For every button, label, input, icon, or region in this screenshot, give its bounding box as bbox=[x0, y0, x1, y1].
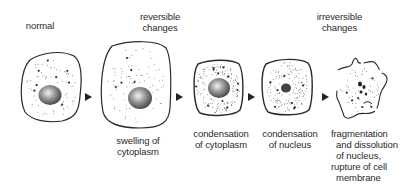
stipple-dot bbox=[302, 77, 303, 78]
stipple-dot bbox=[115, 72, 116, 73]
stipple-dot bbox=[227, 70, 228, 71]
stipple-dot bbox=[276, 78, 277, 79]
stipple-dot bbox=[219, 106, 220, 107]
stipple-dot bbox=[219, 109, 220, 110]
stipple-dot bbox=[122, 71, 123, 72]
stipple-dot bbox=[306, 76, 307, 77]
stipple-dot bbox=[72, 101, 73, 102]
stipple-dot bbox=[237, 83, 239, 85]
stipple-dot bbox=[154, 78, 155, 79]
nucleus-pyknotic bbox=[281, 84, 291, 93]
stipple-dot bbox=[53, 60, 54, 61]
stipple-dot bbox=[275, 101, 276, 102]
stipple-dot bbox=[225, 70, 226, 71]
stipple-dot bbox=[293, 107, 295, 109]
stipple-dot bbox=[115, 86, 117, 88]
stipple-dot bbox=[370, 105, 371, 106]
stipple-dot bbox=[287, 107, 288, 108]
stipple-dot bbox=[211, 99, 212, 100]
stipple-dot bbox=[287, 66, 288, 67]
stipple-dot bbox=[371, 77, 373, 79]
stipple-dot bbox=[307, 85, 308, 86]
stipple-dot bbox=[237, 78, 238, 79]
stipple-dot bbox=[352, 96, 353, 97]
stipple-dot bbox=[47, 60, 49, 62]
stipple-dot bbox=[348, 102, 349, 103]
stipple-dot bbox=[201, 93, 202, 94]
stipple-dot bbox=[350, 73, 351, 74]
stipple-dot bbox=[222, 66, 224, 68]
stipple-dot bbox=[302, 82, 303, 83]
stipple-dot bbox=[210, 103, 211, 104]
stipple-dot bbox=[207, 94, 208, 95]
stipple-dot bbox=[212, 74, 213, 75]
stipple-dot bbox=[66, 82, 67, 83]
stipple-dot bbox=[274, 86, 275, 87]
stipple-dot bbox=[295, 69, 296, 70]
stipple-dot bbox=[374, 97, 375, 98]
stipple-dot bbox=[291, 71, 292, 72]
stipple-dot bbox=[222, 74, 223, 75]
stipple-dot bbox=[295, 68, 296, 69]
stipple-dot bbox=[221, 100, 223, 102]
stipple-dot bbox=[290, 62, 291, 63]
stipple-dot bbox=[67, 106, 68, 107]
stipple-dot bbox=[300, 69, 301, 70]
stipple-dot bbox=[156, 99, 157, 100]
stipple-dot bbox=[162, 80, 163, 81]
stipple-dot bbox=[156, 89, 157, 90]
stipple-dot bbox=[33, 90, 35, 92]
stipple-dot bbox=[228, 103, 229, 104]
stipple-dot bbox=[72, 86, 73, 87]
stipple-dot bbox=[301, 90, 302, 91]
stipple-dot bbox=[278, 107, 279, 108]
stipple-dot bbox=[294, 98, 295, 99]
stipple-dot bbox=[216, 70, 217, 71]
stipple-dot bbox=[205, 84, 206, 85]
stipple-dot bbox=[237, 92, 238, 93]
stipple-dot bbox=[159, 80, 160, 81]
stipple-dot bbox=[121, 73, 122, 74]
stipple-dot bbox=[353, 88, 354, 89]
stipple-dot bbox=[305, 75, 306, 76]
stipple-dot bbox=[297, 104, 298, 105]
stipple-dot bbox=[199, 77, 200, 78]
stipple-dot bbox=[295, 84, 296, 85]
stipple-dot bbox=[236, 89, 238, 91]
stipple-dot bbox=[66, 74, 67, 75]
stipple-dot bbox=[376, 95, 377, 96]
stipple-dot bbox=[357, 76, 358, 77]
stipple-dot bbox=[304, 94, 305, 95]
stipple-dot bbox=[269, 81, 271, 83]
caption-condensation-cytoplasm: condensation of cytoplasm bbox=[186, 128, 256, 150]
stipple-dot bbox=[351, 99, 353, 101]
stipple-dot bbox=[270, 92, 271, 93]
stipple-dot bbox=[114, 75, 115, 76]
stipple-dot bbox=[204, 89, 205, 90]
stipple-dot bbox=[38, 105, 39, 106]
stipple-dot bbox=[126, 109, 127, 110]
stipple-dot bbox=[289, 109, 290, 110]
stipple-dot bbox=[275, 95, 276, 96]
stipple-dot bbox=[233, 95, 234, 96]
stipple-dot bbox=[212, 107, 213, 108]
stipple-dot bbox=[239, 91, 240, 92]
stipple-dot bbox=[66, 70, 68, 72]
stipple-dot bbox=[128, 66, 129, 67]
stipple-dot bbox=[121, 68, 122, 69]
stipple-dot bbox=[269, 87, 270, 88]
stipple-dot bbox=[378, 94, 379, 95]
stipple-dot bbox=[27, 81, 28, 82]
stipple-dot bbox=[118, 86, 119, 87]
stipple-dot bbox=[294, 104, 295, 105]
stipple-dot bbox=[226, 110, 227, 111]
stipple-dot bbox=[276, 76, 277, 77]
stipple-dot bbox=[306, 81, 307, 82]
stipple-dot bbox=[355, 93, 356, 94]
stipple-dot bbox=[128, 76, 129, 77]
stipple-dot bbox=[301, 69, 302, 70]
stipple-dot bbox=[202, 78, 203, 79]
stipple-dot bbox=[115, 107, 116, 108]
stipple-dot bbox=[46, 77, 47, 78]
stipple-dot bbox=[203, 99, 204, 100]
